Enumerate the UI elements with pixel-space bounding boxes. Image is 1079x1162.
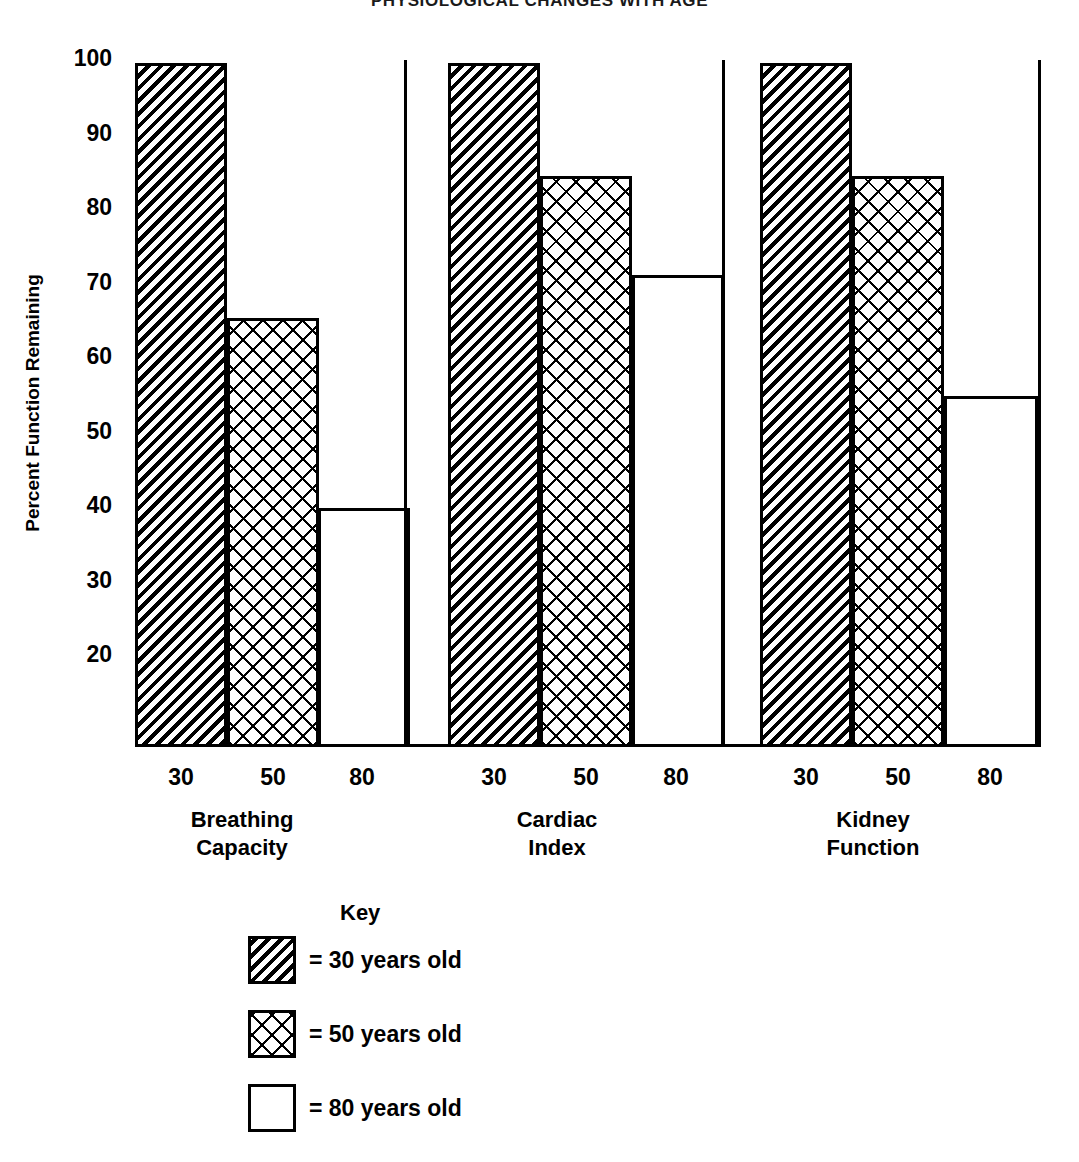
y-axis-tick-100: 100 — [46, 47, 112, 70]
legend-item-50-years: = 50 years old — [248, 1010, 462, 1058]
group-divider-2 — [722, 60, 725, 747]
x-axis-tick-cardiac-index-50: 50 — [540, 764, 632, 791]
bar-kidney-function-age-50 — [852, 176, 944, 747]
x-axis-tick-kidney-function-50: 50 — [852, 764, 944, 791]
legend-label: = 80 years old — [309, 1095, 462, 1122]
group-label-line1: Cardiac — [437, 806, 677, 834]
bar-breathing-capacity-age-30 — [135, 63, 227, 747]
group-divider-3 — [1038, 60, 1041, 747]
bar-cardiac-index-age-50 — [540, 176, 632, 747]
group-label-line2: Index — [437, 834, 677, 862]
bar-kidney-function-age-30 — [760, 63, 852, 747]
legend-item-80-years: = 80 years old — [248, 1084, 462, 1132]
legend-swatch-cross — [248, 1010, 296, 1058]
legend-swatch-plain — [248, 1084, 296, 1132]
x-axis-tick-breathing-capacity-50: 50 — [227, 764, 319, 791]
y-axis-tick-50: 50 — [46, 420, 112, 443]
y-axis-tick-90: 90 — [46, 122, 112, 145]
legend-label: = 50 years old — [309, 1021, 462, 1048]
legend-title: Key — [340, 900, 380, 926]
y-axis-tick-80: 80 — [46, 196, 112, 219]
x-axis-tick-kidney-function-30: 30 — [760, 764, 852, 791]
y-axis-tick-70: 70 — [46, 271, 112, 294]
x-axis-tick-breathing-capacity-30: 30 — [135, 764, 227, 791]
x-axis-baseline — [135, 744, 1041, 747]
group-label-breathing-capacity: BreathingCapacity — [122, 806, 362, 862]
bar-breathing-capacity-age-50 — [227, 318, 319, 747]
x-axis-tick-breathing-capacity-80: 80 — [316, 764, 408, 791]
bar-cardiac-index-age-30 — [448, 63, 540, 747]
group-label-line1: Kidney — [753, 806, 993, 834]
bar-cardiac-index-age-80 — [632, 275, 724, 747]
y-axis-tick-20: 20 — [46, 643, 112, 666]
y-axis-title: Percent Function Remaining — [22, 238, 44, 568]
x-axis-tick-cardiac-index-80: 80 — [630, 764, 722, 791]
group-label-cardiac-index: CardiacIndex — [437, 806, 677, 862]
group-divider-1 — [404, 60, 407, 747]
x-axis-tick-kidney-function-80: 80 — [944, 764, 1036, 791]
group-label-line2: Capacity — [122, 834, 362, 862]
legend-item-30-years: = 30 years old — [248, 936, 462, 984]
chart-plot-area: Percent Function Remaining 1009080706050… — [0, 0, 1079, 760]
group-label-line2: Function — [753, 834, 993, 862]
y-axis-tick-60: 60 — [46, 345, 112, 368]
bar-breathing-capacity-age-80 — [318, 508, 410, 747]
y-axis-tick-30: 30 — [46, 569, 112, 592]
legend-swatch-hatch — [248, 936, 296, 984]
x-axis-tick-cardiac-index-30: 30 — [448, 764, 540, 791]
legend-label: = 30 years old — [309, 947, 462, 974]
group-label-kidney-function: KidneyFunction — [753, 806, 993, 862]
bar-kidney-function-age-80 — [944, 396, 1038, 747]
group-label-line1: Breathing — [122, 806, 362, 834]
y-axis-tick-40: 40 — [46, 494, 112, 517]
